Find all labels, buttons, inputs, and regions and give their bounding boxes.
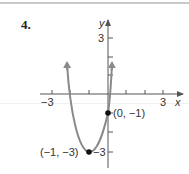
x-axis bbox=[40, 90, 183, 94]
intercept-point bbox=[105, 110, 111, 116]
y-axis-label: y bbox=[98, 17, 106, 29]
y-tick-neg3: −3 bbox=[93, 146, 106, 158]
x-tick-neg3: −3 bbox=[41, 96, 54, 108]
parabola-graph: y 3 −3 −3 3 x (0, −1) (−1, −3) bbox=[0, 0, 189, 174]
x-axis-label: x bbox=[174, 96, 181, 108]
intercept-label: (0, −1) bbox=[113, 107, 145, 119]
x-tick-3: 3 bbox=[160, 96, 166, 108]
parabola-curve bbox=[67, 64, 112, 152]
vertex-label: (−1, −3) bbox=[40, 146, 79, 158]
vertex-point bbox=[86, 149, 92, 155]
y-tick-3: 3 bbox=[98, 32, 104, 44]
